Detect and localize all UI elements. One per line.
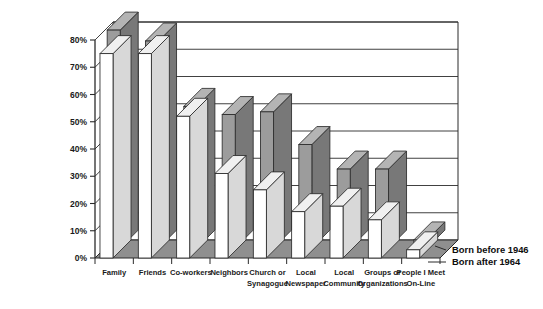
legend-entry-label: Born after 1964 — [452, 256, 521, 267]
y-axis-tick-label: 40% — [70, 144, 87, 154]
x-axis-category-label: Family — [102, 268, 127, 277]
y-axis-tick-label: 50% — [70, 117, 87, 127]
y-axis-tick-label: 10% — [70, 226, 87, 236]
x-axis-category-label: Organizations — [357, 279, 408, 288]
x-axis-category-label: Co-workers — [170, 268, 212, 277]
legend-entry-label: Born before 1946 — [452, 244, 529, 255]
x-axis-category-label: Church or — [249, 268, 285, 277]
x-axis-category-label: Groups or — [364, 268, 401, 277]
y-axis-tick-label: 60% — [70, 90, 87, 100]
chart-container: 0%10%20%30%40%50%60%70%80%FamilyFriendsC… — [0, 0, 543, 309]
x-axis-category-label: Synagogue — [247, 279, 288, 288]
bar-1-light — [138, 36, 169, 258]
x-axis-category-label: On-Line — [406, 279, 435, 288]
y-axis-tick-label: 80% — [70, 35, 87, 45]
bar-2-light — [177, 98, 208, 258]
y-axis-tick-label: 20% — [70, 199, 87, 209]
x-axis-category-label: Neighbors — [210, 268, 248, 277]
y-axis-tick-label: 0% — [75, 253, 88, 263]
x-axis-category-label: Local — [334, 268, 354, 277]
bar-4-light — [253, 172, 284, 258]
y-axis-tick-label: 30% — [70, 171, 87, 181]
bar-0-light — [100, 36, 131, 258]
x-axis-category-label: Newspaper — [286, 279, 327, 288]
x-axis-category-label: Local — [296, 268, 316, 277]
x-axis-category-label: People I Meet — [397, 268, 446, 277]
bar-chart-3d: 0%10%20%30%40%50%60%70%80%FamilyFriendsC… — [0, 0, 543, 309]
bar-3-light — [215, 156, 246, 258]
x-axis-category-label: Friends — [139, 268, 166, 277]
y-axis-tick-label: 70% — [70, 62, 87, 72]
